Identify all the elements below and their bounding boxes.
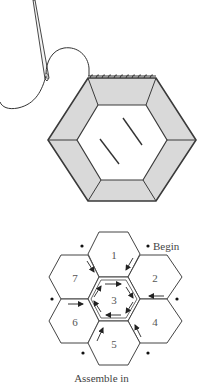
quilting-diagram: 1 2 3 4 5 6 7 Begin Assemble in: [0, 0, 203, 386]
figure-caption: Assemble in: [0, 372, 203, 384]
fabric-hexagon: [48, 75, 196, 201]
hexagon-5-label: 5: [111, 338, 117, 350]
hexagon-6-label: 6: [72, 316, 78, 328]
hexagon-3-label: 3: [111, 294, 117, 306]
hexagon-1-label: 1: [111, 249, 117, 261]
diagram-canvas: 1 2 3 4 5 6 7 Begin: [0, 0, 203, 386]
hexagon-7-label: 7: [72, 272, 78, 284]
hexagon-2-label: 2: [152, 272, 158, 284]
hexagon-4-label: 4: [152, 316, 158, 328]
begin-dot: [146, 244, 149, 247]
begin-label: Begin: [153, 240, 180, 252]
